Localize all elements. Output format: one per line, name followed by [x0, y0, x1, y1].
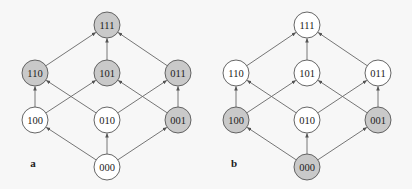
- node-110: 110: [22, 60, 48, 86]
- node-label: 100: [27, 115, 43, 126]
- edge-011-to-111: [118, 33, 167, 66]
- edge-000-to-100: [247, 127, 296, 159]
- node-001: 001: [165, 107, 191, 133]
- node-000: 000: [294, 154, 320, 180]
- node-011: 011: [165, 60, 191, 86]
- node-label: 010: [99, 115, 115, 126]
- node-010: 010: [94, 107, 120, 133]
- node-label: 101: [299, 68, 315, 79]
- node-111: 111: [294, 12, 320, 38]
- node-001: 001: [365, 107, 391, 133]
- panel-a: 111110101011100010001000a: [22, 12, 191, 180]
- node-label: 001: [170, 115, 186, 126]
- edge-110-to-111: [46, 32, 96, 65]
- node-101: 101: [94, 60, 120, 86]
- node-label: 100: [228, 115, 244, 126]
- node-label: 011: [370, 68, 385, 79]
- edge-110-to-111: [247, 33, 296, 66]
- node-011: 011: [365, 60, 391, 86]
- node-110: 110: [223, 60, 249, 86]
- node-label: 110: [228, 68, 243, 79]
- hasse-diagram-figure: 111110101011100010001000a 11111010101110…: [0, 0, 412, 189]
- edge-000-to-001: [118, 127, 167, 159]
- node-101: 101: [294, 60, 320, 86]
- node-label: 001: [370, 115, 386, 126]
- node-label: 010: [299, 115, 315, 126]
- node-111: 111: [94, 12, 120, 38]
- node-label: 111: [100, 20, 115, 31]
- edge-000-to-001: [318, 127, 367, 159]
- node-label: 000: [99, 162, 115, 173]
- edge-011-to-111: [318, 33, 367, 66]
- node-label: 000: [299, 162, 315, 173]
- node-label: 011: [170, 68, 185, 79]
- edge-000-to-100: [46, 127, 96, 160]
- node-100: 100: [223, 107, 249, 133]
- panel-b: 111110101011100010001000b: [223, 12, 391, 180]
- panel-label: b: [231, 157, 237, 169]
- panel-label: a: [30, 157, 36, 169]
- node-100: 100: [22, 107, 48, 133]
- node-000: 000: [94, 154, 120, 180]
- node-label: 111: [300, 20, 315, 31]
- node-010: 010: [294, 107, 320, 133]
- node-label: 110: [27, 68, 42, 79]
- diagram-canvas: 111110101011100010001000a 11111010101110…: [0, 0, 412, 189]
- node-label: 101: [99, 68, 115, 79]
